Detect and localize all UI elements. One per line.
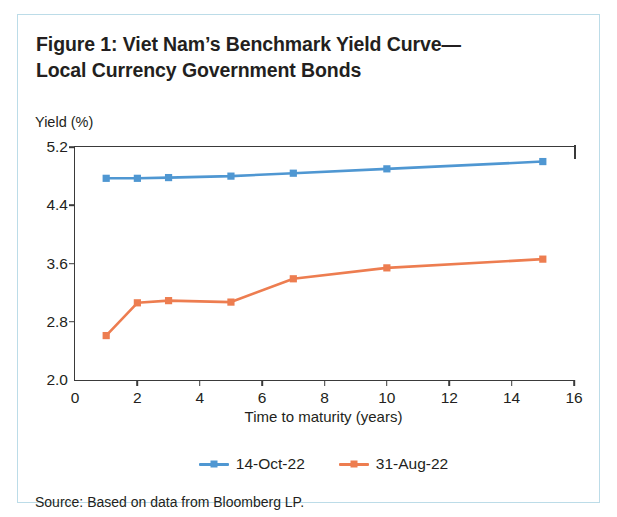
data-point-marker (227, 173, 234, 180)
x-axis-tick-label: 12 (441, 389, 458, 407)
series-14-oct-22 (103, 158, 547, 182)
x-axis-tick-label: 16 (565, 389, 582, 407)
y-axis-title: Yield (%) (35, 114, 93, 130)
data-point-marker (290, 275, 297, 282)
y-axis-tick-label: 5.2 (46, 138, 68, 156)
y-axis-tick-label: 4.4 (46, 196, 68, 214)
series-svg (75, 147, 574, 380)
x-axis-tick-mark (261, 380, 263, 386)
y-axis-tick-label: 2.0 (46, 371, 68, 389)
y-axis-tick-label: 3.6 (46, 255, 68, 273)
x-axis-tick-mark (199, 380, 201, 386)
data-point-marker (103, 332, 110, 339)
x-axis-tick-mark (386, 380, 388, 386)
legend-swatch-icon (339, 463, 369, 466)
legend-label: 14-Oct-22 (236, 455, 305, 473)
legend-item-14-oct-22[interactable]: 14-Oct-22 (199, 455, 305, 473)
data-point-marker (227, 298, 234, 305)
data-point-marker (383, 264, 390, 271)
x-axis-tick-label: 6 (258, 389, 267, 407)
data-point-marker (383, 165, 390, 172)
y-axis-tick-label: 2.8 (46, 313, 68, 331)
chart-legend: 14-Oct-2231-Aug-22 (74, 455, 573, 473)
series-31-aug-22 (103, 256, 547, 340)
chart-plot-wrapper: Yield (%) 2.02.83.64.45.2 0246810121416 … (18, 15, 601, 504)
data-point-marker (165, 297, 172, 304)
data-point-marker (103, 175, 110, 182)
x-axis-tick-label: 2 (133, 389, 142, 407)
x-axis-tick-mark (448, 380, 450, 386)
x-axis-tick-label: 8 (320, 389, 329, 407)
x-axis-tick-label: 4 (195, 389, 204, 407)
source-note: Source: Based on data from Bloomberg LP. (35, 494, 304, 510)
x-axis-tick-mark (511, 380, 513, 386)
x-axis-tick-mark (324, 380, 326, 386)
plot-area: 2.02.83.64.45.2 0246810121416 (74, 146, 574, 381)
data-point-marker (134, 299, 141, 306)
data-point-marker (165, 174, 172, 181)
axis-right-cap (574, 145, 576, 159)
legend-item-31-aug-22[interactable]: 31-Aug-22 (339, 455, 448, 473)
x-axis-tick-label: 10 (378, 389, 395, 407)
data-point-marker (290, 170, 297, 177)
data-point-marker (539, 158, 546, 165)
data-point-marker (539, 256, 546, 263)
x-axis-tick-label: 14 (503, 389, 520, 407)
x-axis-tick-mark (573, 380, 575, 386)
legend-label: 31-Aug-22 (376, 455, 448, 473)
data-point-marker (134, 175, 141, 182)
figure-card: Figure 1: Viet Nam’s Benchmark Yield Cur… (17, 14, 600, 503)
x-axis-title: Time to maturity (years) (74, 408, 573, 425)
legend-swatch-icon (199, 463, 229, 466)
x-axis-tick-mark (137, 380, 139, 386)
x-axis-tick-label: 0 (71, 389, 80, 407)
